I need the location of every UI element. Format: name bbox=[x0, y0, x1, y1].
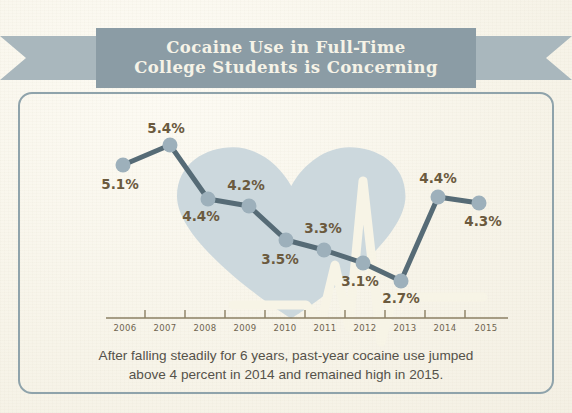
x-tick-label: 2014 bbox=[434, 323, 457, 333]
x-tick-label: 2011 bbox=[314, 323, 337, 333]
data-point[interactable] bbox=[394, 274, 409, 289]
title-line-1: Cocaine Use in Full-Time bbox=[166, 38, 406, 58]
data-point[interactable] bbox=[163, 138, 178, 153]
value-label: 3.1% bbox=[341, 273, 379, 289]
x-tick-label: 2012 bbox=[354, 323, 377, 333]
data-point[interactable] bbox=[116, 158, 131, 173]
x-tick-label: 2009 bbox=[234, 323, 257, 333]
value-label: 5.4% bbox=[147, 120, 185, 136]
data-point[interactable] bbox=[356, 256, 371, 271]
chart-area: 5.1% 5.4% 4.4% 4.2% 3.5% 3.3% 3.1% 2.7% … bbox=[18, 92, 554, 394]
x-tick-label: 2015 bbox=[475, 323, 498, 333]
chart-caption: After falling steadily for 6 years, past… bbox=[58, 346, 514, 384]
x-tick-label: 2010 bbox=[274, 323, 297, 333]
value-label: 5.1% bbox=[101, 176, 139, 192]
x-tick-label: 2007 bbox=[154, 323, 177, 333]
infographic-card: Cocaine Use in Full-Time College Student… bbox=[0, 0, 572, 413]
data-point[interactable] bbox=[201, 192, 216, 207]
axis-ticks bbox=[145, 310, 465, 318]
title-ribbon: Cocaine Use in Full-Time College Student… bbox=[0, 18, 572, 96]
x-tick-label: 2008 bbox=[194, 323, 217, 333]
ribbon-center: Cocaine Use in Full-Time College Student… bbox=[96, 28, 476, 88]
value-label: 4.4% bbox=[182, 208, 220, 224]
ribbon-tail-left bbox=[0, 36, 96, 80]
value-label: 4.3% bbox=[464, 213, 502, 229]
x-tick-label: 2006 bbox=[114, 323, 137, 333]
data-point[interactable] bbox=[279, 233, 294, 248]
x-tick-label: 2013 bbox=[394, 323, 417, 333]
value-label: 2.7% bbox=[382, 290, 420, 306]
caption-line-2: above 4 percent in 2014 and remained hig… bbox=[58, 365, 514, 384]
value-label: 4.4% bbox=[419, 170, 457, 186]
value-label: 3.5% bbox=[261, 251, 299, 267]
ribbon-tail-right bbox=[476, 36, 572, 80]
data-point[interactable] bbox=[242, 199, 257, 214]
value-label: 3.3% bbox=[304, 220, 342, 236]
title-line-2: College Students is Concerning bbox=[134, 58, 438, 78]
value-label: 4.2% bbox=[227, 177, 265, 193]
data-point[interactable] bbox=[317, 243, 332, 258]
data-point[interactable] bbox=[472, 196, 487, 211]
data-point[interactable] bbox=[431, 190, 446, 205]
x-axis-labels: 2006 2007 2008 2009 2010 2011 2012 2013 … bbox=[114, 323, 498, 333]
caption-line-1: After falling steadily for 6 years, past… bbox=[58, 346, 514, 365]
